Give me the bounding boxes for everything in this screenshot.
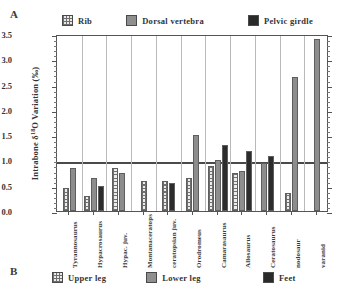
bar-rib [186,178,192,211]
bar-rib [162,181,168,211]
bar-pelvic [246,151,252,211]
legend-item-rib: Rib [62,15,92,26]
legend-label-lower-leg: Lower leg [162,273,201,283]
x-axis-label: Hypac. juv. [121,233,129,268]
x-axis-label: Hypacrosaurus [96,221,104,268]
legend-item-feet: Feet [263,272,296,283]
x-axis-tick-mark [241,212,242,215]
bar-vert [314,39,320,211]
bar-group [82,36,107,211]
x-axis-tick-mark [316,212,317,215]
x-axis-tick-mark [68,212,69,215]
x-axis-tick-mark [291,212,292,215]
y-axis-title-pre: Intrabone [30,140,40,181]
x-axis-tick-mark [217,212,218,215]
hatch-swatch-icon [62,15,73,26]
gray-swatch-icon [146,272,157,283]
bar-group [131,36,156,211]
black-swatch-icon [248,15,259,26]
bar-group [156,36,181,211]
bar-rib [141,181,147,211]
bar-group [106,36,131,211]
bar-vert [239,171,245,211]
bar-pelvic [222,145,228,211]
y-tick-label: 1.0 [0,156,12,166]
hatch-swatch-icon [52,272,63,283]
bar-rib [84,196,90,211]
legend-label-rib: Rib [78,16,92,26]
x-axis-tick-mark [143,212,144,215]
panel-b-label: B [10,265,17,277]
bar-group [230,36,255,211]
bar-group [181,36,206,211]
x-axis-labels: TyrannosaurusHypacrosaurusHypac. juv.Mon… [56,212,328,270]
x-axis-tick-mark [192,212,193,215]
bar-rib [63,188,69,211]
legend-bottom: Upper leg Lower leg Feet [52,272,342,283]
bar-vert [91,178,97,211]
bar-pelvic [98,186,104,211]
panel-a-label: A [10,8,18,20]
y-axis-title-post: O Variation (‰) [30,67,40,129]
bar-rib [208,166,214,212]
x-axis-label: Ceratosaurus [269,226,277,268]
y-tick-label: 0.0 [0,207,12,217]
y-tick-label: 3.0 [0,55,12,65]
bar-rib [232,173,238,211]
gray-swatch-icon [126,15,137,26]
y-axis-title-delta: δ [30,135,40,140]
bar-group [57,36,82,211]
legend-label-dorsal-vertebra: Dorsal vertebra [142,16,204,26]
x-axis-tick-mark [118,212,119,215]
y-tick-label: 2.5 [0,81,12,91]
x-axis-label: nodosaur [294,239,302,268]
legend-label-upper-leg: Upper leg [68,273,106,283]
x-axis-label: Tyrannosaurus [71,221,79,268]
x-axis-label: Montanaceratops [146,214,154,268]
legend-item-lower-leg: Lower leg [146,272,201,283]
bar-vert [215,160,221,211]
bar-pelvic [268,156,274,211]
x-axis-tick-mark [93,212,94,215]
bar-vert [193,135,199,211]
bar-vert [70,168,76,211]
y-tick-label: 1.5 [0,131,12,141]
bar-vert [292,77,298,211]
black-swatch-icon [263,272,274,283]
y-tick-label: 3.5 [0,30,12,40]
bar-vert [119,173,125,211]
legend-item-dorsal-vertebra: Dorsal vertebra [126,15,204,26]
y-tick-label: 2.0 [0,106,12,116]
legend-top: Rib Dorsal vertebra Pelvic girdle [62,15,340,26]
legend-label-feet: Feet [279,273,296,283]
legend-item-upper-leg: Upper leg [52,272,106,283]
x-axis-tick-mark [266,212,267,215]
x-axis-label: Orodromeus [195,229,203,268]
bar-group [255,36,280,211]
bar-pelvic [169,183,175,211]
legend-item-pelvic-girdle: Pelvic girdle [248,15,313,26]
x-axis-label: Allosaurus [244,235,252,268]
x-axis-label: Camarasaurus [220,222,228,268]
y-axis-title: Intrabone δ18O Variation (‰) [30,33,41,213]
y-axis-title-superscript: 18 [30,129,36,135]
figure-root: A B Rib Dorsal vertebra Pelvic girdle In… [0,0,343,292]
x-axis-label: ceratopsian juv. [170,219,178,268]
plot-area [56,35,328,212]
bar-group [280,36,305,211]
bar-group [304,36,329,211]
legend-label-pelvic-girdle: Pelvic girdle [264,16,313,26]
bar-vert [261,163,267,211]
bar-rib [112,168,118,211]
y-tick-label: 0.5 [0,182,12,192]
x-axis-label: varanid [319,244,327,268]
bar-rib [285,193,291,211]
bar-group [205,36,230,211]
x-axis-tick-mark [167,212,168,215]
